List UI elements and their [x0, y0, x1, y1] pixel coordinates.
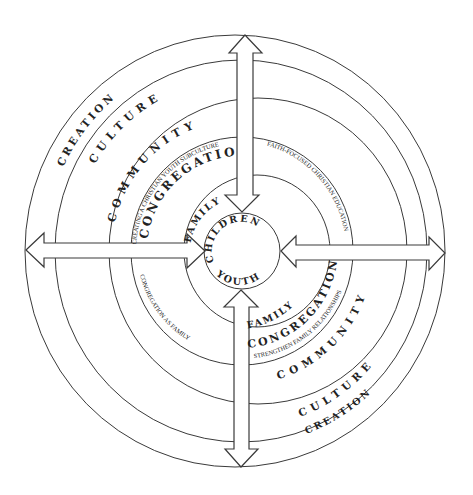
label-children: CHILDREN: [202, 213, 263, 265]
arrow-right-icon: [281, 236, 445, 270]
arrow-top-icon: [225, 35, 262, 212]
labels: CREATION CULTURE COMMUNITY CREATING A CH…: [0, 0, 376, 436]
arrow-left-icon: [26, 233, 205, 268]
label-creation-upper: CREATION: [54, 90, 117, 168]
concentric-diagram: CREATION CULTURE COMMUNITY CREATING A CH…: [0, 0, 473, 495]
label-faith-focused-education: FAITH-FOCUSED CHRISTIAN EDUCATION: [266, 140, 350, 232]
label-congregation-as-family: CONGREGATION AS FAMILY: [139, 273, 192, 341]
arrow-bottom-icon: [224, 290, 258, 467]
label-youth: YOUTH: [214, 267, 263, 287]
